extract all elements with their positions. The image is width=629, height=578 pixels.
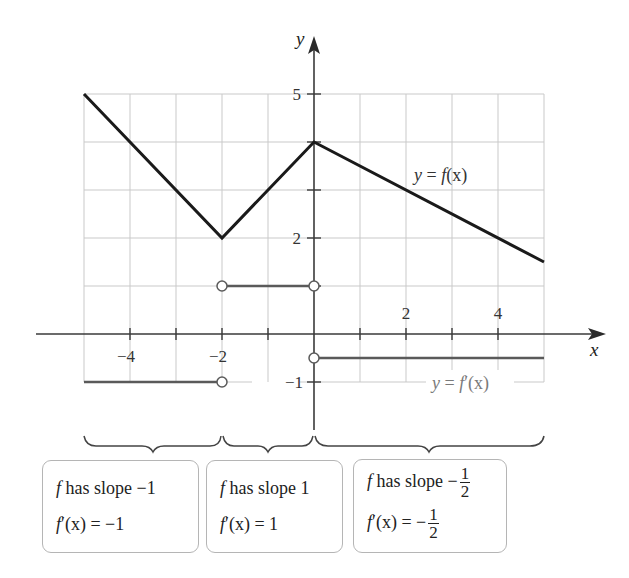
brace-interval-2 xyxy=(223,436,313,452)
derivative-text: f′(x) = −1 xyxy=(56,514,124,535)
slope-text: f has slope −1 xyxy=(56,478,156,499)
y-tick-label-minus-1: −1 xyxy=(285,373,303,392)
brace-interval-1 xyxy=(84,436,221,452)
slope-box-3: f has slope −12 f′(x) = −12 xyxy=(353,459,507,553)
y-axis-label: y xyxy=(294,28,305,49)
fraction: 12 xyxy=(428,506,439,541)
open-circle-icon xyxy=(217,377,227,387)
y-tick-label-2: 2 xyxy=(293,229,302,248)
x-tick-label-4: 4 xyxy=(494,304,503,323)
x-tick-label-2: 2 xyxy=(402,304,411,323)
open-circle-icon xyxy=(217,281,227,291)
f-prime-label: y = f′(x) xyxy=(430,373,489,394)
brace-interval-3 xyxy=(315,436,544,452)
slope-text: f has slope 1 xyxy=(220,478,310,499)
slope-box-1: f has slope −1 f′(x) = −1 xyxy=(42,460,199,553)
slope-box-2: f has slope 1 f′(x) = 1 xyxy=(206,460,343,553)
y-tick-label-5: 5 xyxy=(293,85,302,104)
open-circle-icon xyxy=(309,281,319,291)
fraction: 12 xyxy=(460,465,471,500)
derivative-text: f′(x) = −12 xyxy=(367,506,439,541)
derivative-text: f′(x) = 1 xyxy=(220,514,278,535)
x-tick-label-minus-4: −4 xyxy=(117,347,136,366)
x-axis-label: x xyxy=(589,339,599,360)
open-circle-icon xyxy=(309,353,319,363)
slope-text: f has slope −12 xyxy=(367,465,470,500)
x-tick-label-minus-2: −2 xyxy=(209,347,227,366)
f-curve-label: y = f(x) xyxy=(412,165,467,186)
